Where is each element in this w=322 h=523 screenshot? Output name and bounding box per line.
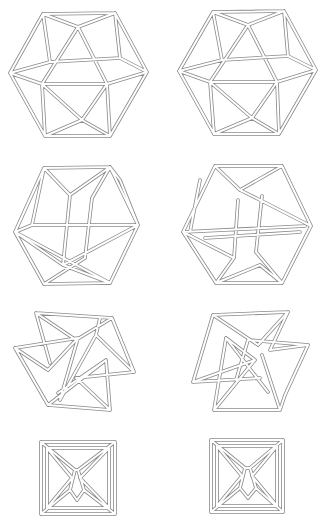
row3-right-wireframe — [193, 312, 308, 410]
row3-left-wireframe — [15, 313, 134, 410]
row4-left-wireframe — [41, 442, 115, 514]
tube-outline — [179, 11, 316, 134]
row4-right-wireframe — [211, 440, 283, 512]
row2-right-wireframe — [183, 166, 311, 283]
tube-fill — [211, 440, 283, 512]
tube-fill — [41, 442, 115, 514]
polyhedra-stereo-figure — [0, 0, 322, 523]
row1-right-wireframe — [179, 11, 316, 134]
row2-left-wireframe — [15, 167, 138, 284]
tube-fill — [193, 312, 308, 410]
row1-left-wireframe — [10, 13, 147, 136]
